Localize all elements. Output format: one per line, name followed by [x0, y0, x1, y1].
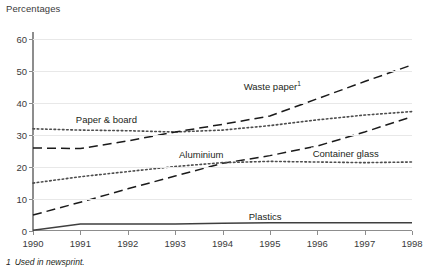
x-axis-tick	[412, 231, 413, 235]
gridline	[33, 103, 412, 104]
gridline	[33, 167, 412, 168]
x-axis-tick	[128, 231, 129, 235]
series-label: Plastics	[247, 211, 284, 222]
series-label: Paper & board	[74, 113, 139, 124]
x-axis-tick	[80, 231, 81, 235]
y-axis-tick-label: 50	[16, 66, 27, 77]
y-axis-tick	[29, 167, 33, 168]
x-axis-tick-label: 1990	[22, 238, 43, 249]
x-axis-tick-label: 1992	[117, 238, 138, 249]
y-axis-tick-label: 60	[16, 34, 27, 45]
x-axis-tick	[270, 231, 271, 235]
y-axis-tick-label: 10	[16, 194, 27, 205]
gridline	[33, 135, 412, 136]
x-axis-tick-label: 1998	[401, 238, 422, 249]
footnote: 1Used in newsprint.	[6, 257, 85, 267]
x-axis-tick	[365, 231, 366, 235]
y-axis-tick	[29, 39, 33, 40]
y-axis-tick-label: 20	[16, 162, 27, 173]
footnote-text: Used in newsprint.	[15, 257, 85, 267]
plot-area: 0102030405060199019911992199319941995199…	[33, 33, 412, 231]
y-axis-tick-label: 40	[16, 98, 27, 109]
series-label: Aluminium	[177, 149, 225, 160]
x-axis-tick-label: 1995	[259, 238, 280, 249]
x-axis-tick	[33, 231, 34, 235]
footnote-marker: 1	[6, 257, 11, 267]
y-axis-tick	[29, 199, 33, 200]
y-axis-tick	[29, 71, 33, 72]
series-layer	[33, 33, 412, 231]
series-label-footnote-marker: 1	[297, 80, 301, 87]
y-axis-tick	[29, 103, 33, 104]
y-axis-tick	[29, 135, 33, 136]
gridline	[33, 39, 412, 40]
series-label: Container glass	[311, 148, 381, 159]
gridline	[33, 71, 412, 72]
x-axis-tick	[223, 231, 224, 235]
series-line	[33, 223, 412, 231]
gridline	[33, 199, 412, 200]
x-axis-tick-label: 1996	[307, 238, 328, 249]
series-line	[33, 117, 412, 215]
y-axis-tick-label: 30	[16, 130, 27, 141]
series-label: Waste paper1	[242, 80, 303, 92]
x-axis-tick-label: 1991	[70, 238, 91, 249]
x-axis-tick	[175, 231, 176, 235]
recycling-rates-line-chart: Percentages 0102030405060199019911992199…	[0, 0, 426, 271]
x-axis-tick-label: 1994	[212, 238, 233, 249]
y-axis-title: Percentages	[6, 3, 60, 14]
y-axis-tick-label: 0	[22, 226, 27, 237]
series-line	[33, 161, 412, 183]
x-axis-tick-label: 1997	[354, 238, 375, 249]
x-axis-tick	[317, 231, 318, 235]
x-axis-tick-label: 1993	[165, 238, 186, 249]
